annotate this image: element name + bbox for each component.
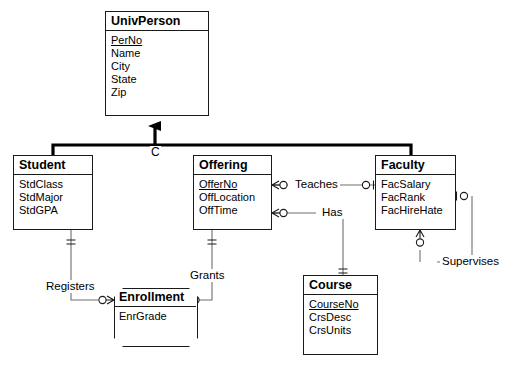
- entity-faculty-attributes: FacSalary FacRank FacHireHate: [376, 175, 455, 219]
- entity-course[interactable]: Course CourseNo CrsDesc CrsUnits: [303, 275, 378, 355]
- cardinality-teaches-faculty-one: [362, 181, 373, 190]
- entity-offering-title: Offering: [194, 156, 271, 175]
- cardinality-has-course-one: [339, 269, 348, 273]
- entity-univperson[interactable]: UnivPerson PerNo Name City State Zip: [105, 11, 209, 116]
- attribute-offlocation: OffLocation: [199, 191, 271, 204]
- attribute-stdclass: StdClass: [19, 178, 92, 191]
- cardinality-grants-offering-one: [208, 240, 217, 244]
- cardinality-registers-student-one: [67, 240, 76, 244]
- attribute-offerno: OfferNo: [199, 178, 271, 191]
- attribute-facrank: FacRank: [381, 191, 455, 204]
- entity-univperson-title: UnivPerson: [106, 12, 208, 31]
- connector-grants: [199, 230, 212, 300]
- entity-student-attributes: StdClass StdMajor StdGPA: [14, 175, 92, 219]
- attribute-stdmajor: StdMajor: [19, 191, 92, 204]
- attribute-courseno: CourseNo: [309, 298, 377, 311]
- attribute-zip: Zip: [111, 86, 208, 99]
- cardinality-teaches-offering-many: [272, 181, 287, 189]
- entity-enrollment[interactable]: Enrollment EnrGrade: [114, 288, 196, 345]
- entity-faculty[interactable]: Faculty FacSalary FacRank FacHireHate: [375, 155, 456, 230]
- erd-diagram-canvas: UnivPerson PerNo Name City State Zip C S…: [0, 0, 517, 368]
- relationship-label-teaches: Teaches: [293, 178, 340, 191]
- attribute-perno: PerNo: [111, 34, 208, 47]
- relationship-label-grants: Grants: [188, 269, 227, 282]
- entity-student[interactable]: Student StdClass StdMajor StdGPA: [13, 155, 93, 230]
- connector-has: [272, 213, 343, 275]
- attribute-offtime: OffTime: [199, 204, 271, 217]
- entity-enrollment-attributes: EnrGrade: [114, 307, 196, 325]
- attribute-state: State: [111, 73, 208, 86]
- attribute-fachiredate: FacHireHate: [381, 204, 455, 217]
- entity-course-attributes: CourseNo CrsDesc CrsUnits: [304, 295, 377, 339]
- cardinality-supervises-supervisor-many: [416, 230, 424, 246]
- cardinality-supervises-subordinate-one: [457, 192, 468, 201]
- attribute-city: City: [111, 60, 208, 73]
- entity-faculty-title: Faculty: [376, 156, 455, 175]
- entity-course-title: Course: [304, 276, 377, 295]
- entity-student-title: Student: [14, 156, 92, 175]
- relationship-label-registers: Registers: [44, 280, 97, 293]
- entity-univperson-attributes: PerNo Name City State Zip: [106, 31, 208, 101]
- attribute-name: Name: [111, 47, 208, 60]
- cardinality-registers-enrollment-many: [99, 296, 114, 304]
- attribute-facsalary: FacSalary: [381, 178, 455, 191]
- cardinality-has-offering-many: [272, 209, 287, 217]
- attribute-crsdesc: CrsDesc: [309, 311, 377, 324]
- attribute-stdgpa: StdGPA: [19, 204, 92, 217]
- generalization-category-label: C: [150, 146, 161, 159]
- attribute-enrgrade: EnrGrade: [119, 310, 196, 323]
- relationship-label-has: Has: [320, 206, 344, 219]
- relationship-label-supervises: Supervises: [440, 255, 501, 268]
- entity-enrollment-title: Enrollment: [114, 288, 196, 307]
- entity-offering[interactable]: Offering OfferNo OffLocation OffTime: [193, 155, 272, 230]
- entity-offering-attributes: OfferNo OffLocation OffTime: [194, 175, 271, 219]
- attribute-crsunits: CrsUnits: [309, 324, 377, 337]
